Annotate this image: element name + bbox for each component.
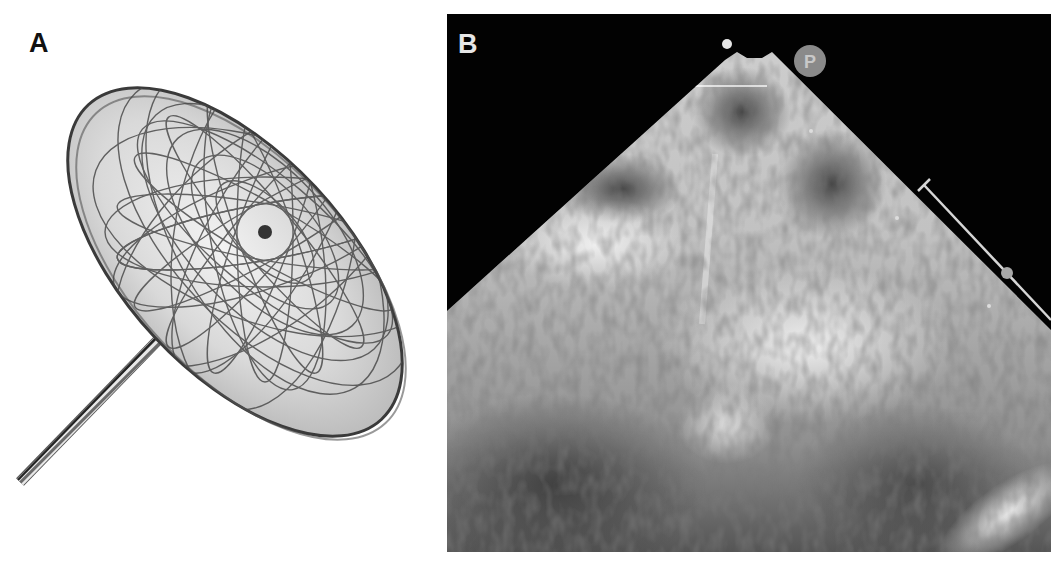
- panel-a-occluder-device: A: [0, 0, 440, 561]
- occluder-device-illustration: [0, 0, 440, 561]
- delivery-cable: [18, 336, 160, 482]
- panel-b-echocardiogram: P B: [447, 14, 1051, 552]
- orientation-marker: P: [794, 45, 826, 77]
- panel-label-a: A: [29, 30, 49, 57]
- occluder-hub: [258, 225, 272, 239]
- depth-scale-marker-icon: [1001, 267, 1013, 279]
- ultrasound-sector: [447, 14, 1051, 552]
- orientation-marker-label: P: [804, 52, 816, 72]
- transducer-marker-icon: [722, 39, 732, 49]
- panel-label-b: B: [458, 31, 478, 58]
- ultrasound-image: P: [447, 14, 1051, 552]
